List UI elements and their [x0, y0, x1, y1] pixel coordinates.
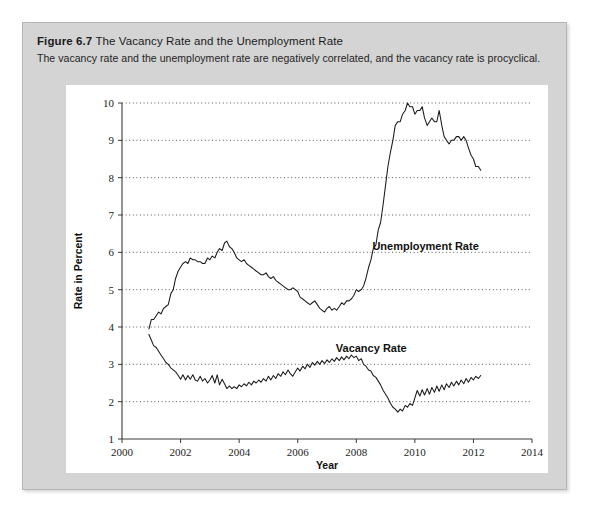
y-axis-title: Rate in Percent	[72, 232, 84, 309]
series-group	[149, 103, 481, 412]
x-tick-label: 2010	[404, 446, 427, 458]
x-tick-label: 2006	[287, 446, 310, 458]
y-tick-label: 6	[109, 246, 115, 258]
plot-panel: 12345678910 2000200220042006200820102012…	[66, 85, 548, 473]
y-tick-label: 7	[109, 209, 115, 221]
series-labels-group: Unemployment RateVacancy Rate	[336, 240, 479, 354]
series-label-vacancy-rate: Vacancy Rate	[336, 342, 407, 354]
figure-title: Figure 6.7 The Vacancy Rate and the Unem…	[37, 35, 553, 47]
series-line-vacancy-rate	[149, 334, 481, 412]
y-tick-label: 9	[109, 134, 115, 146]
x-tick-label: 2004	[228, 446, 251, 458]
y-tick-label: 2	[109, 396, 115, 408]
y-tick-label: 8	[109, 172, 115, 184]
y-tick-label: 1	[109, 433, 115, 445]
y-tick-label: 5	[109, 284, 115, 296]
figure-subtitle: The vacancy rate and the unemployment ra…	[37, 52, 553, 64]
x-axis-ticks: 20002002200420062008201020122014	[111, 439, 544, 458]
y-tick-label: 10	[103, 97, 115, 109]
figure-card: Figure 6.7 The Vacancy Rate and the Unem…	[22, 22, 567, 490]
x-tick-label: 2012	[462, 446, 484, 458]
x-tick-label: 2002	[170, 446, 192, 458]
x-axis-title: Year	[316, 459, 338, 471]
x-tick-label: 2014	[521, 446, 544, 458]
series-line-unemployment-rate	[149, 103, 481, 329]
y-axis-ticks: 12345678910	[103, 97, 122, 445]
y-tick-label: 4	[109, 321, 115, 333]
x-tick-label: 2000	[111, 446, 134, 458]
figure-number: Figure 6.7	[37, 35, 92, 47]
series-label-unemployment-rate: Unemployment Rate	[372, 240, 478, 252]
line-chart: 12345678910 2000200220042006200820102012…	[66, 85, 548, 473]
x-tick-label: 2008	[345, 446, 368, 458]
caption-block: Figure 6.7 The Vacancy Rate and the Unem…	[37, 35, 553, 64]
figure-title-text: The Vacancy Rate and the Unemployment Ra…	[95, 35, 343, 47]
y-tick-label: 3	[109, 358, 115, 370]
